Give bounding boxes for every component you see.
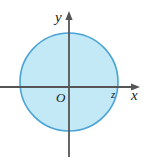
- x-axis-label: x: [131, 88, 138, 103]
- y-axis-label: y: [55, 10, 62, 25]
- coordinate-plane-graphic: [0, 0, 150, 165]
- point-label-z: z: [111, 89, 115, 100]
- figure-canvas: y x z O: [0, 0, 150, 165]
- y-axis-arrowhead-icon: [65, 11, 72, 20]
- origin-label: O: [56, 91, 65, 104]
